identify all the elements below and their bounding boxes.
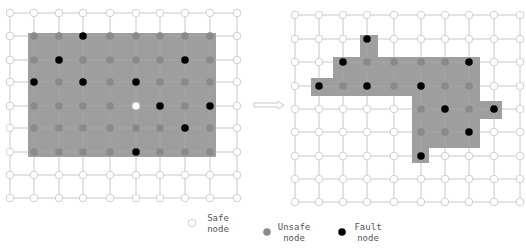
safe-node bbox=[441, 198, 449, 206]
safe-node bbox=[465, 35, 473, 43]
safe-node bbox=[465, 198, 473, 206]
safe-node bbox=[516, 198, 524, 206]
safe-node bbox=[6, 32, 14, 40]
safe-node bbox=[106, 194, 114, 202]
fault-node bbox=[338, 228, 346, 236]
unsafe-node bbox=[156, 32, 164, 40]
safe-node bbox=[465, 152, 473, 160]
fault-node bbox=[206, 102, 214, 110]
fault-region bbox=[333, 57, 480, 79]
unsafe-node bbox=[79, 56, 87, 64]
safe-node bbox=[30, 9, 38, 17]
safe-node bbox=[390, 35, 398, 43]
safe-node bbox=[441, 175, 449, 183]
unsafe-node bbox=[106, 148, 114, 156]
safe-node bbox=[233, 9, 241, 17]
safe-node bbox=[206, 9, 214, 17]
safe-node bbox=[79, 171, 87, 179]
fault-node bbox=[181, 124, 189, 132]
safe-node bbox=[516, 11, 524, 19]
safe-node bbox=[315, 152, 323, 160]
safe-node bbox=[339, 198, 347, 206]
safe-node bbox=[233, 194, 241, 202]
safe-node bbox=[465, 175, 473, 183]
fault-node bbox=[55, 56, 63, 64]
safe-node bbox=[390, 105, 398, 113]
unsafe-node bbox=[79, 102, 87, 110]
unsafe-node bbox=[441, 82, 449, 90]
safe-node bbox=[181, 171, 189, 179]
safe-node bbox=[490, 175, 498, 183]
fault-node bbox=[315, 82, 323, 90]
safe-node bbox=[363, 175, 371, 183]
safe-node bbox=[206, 171, 214, 179]
safe-node bbox=[6, 56, 14, 64]
unsafe-node bbox=[156, 78, 164, 86]
unsafe-node bbox=[30, 56, 38, 64]
safe-node bbox=[465, 11, 473, 19]
safe-node bbox=[516, 82, 524, 90]
safe-node bbox=[315, 198, 323, 206]
unsafe-node bbox=[390, 82, 398, 90]
safe-node bbox=[315, 105, 323, 113]
safe-node bbox=[339, 152, 347, 160]
safe-node bbox=[30, 171, 38, 179]
unsafe-node bbox=[106, 78, 114, 86]
safe-node bbox=[390, 175, 398, 183]
safe-node bbox=[291, 35, 299, 43]
safe-node bbox=[291, 198, 299, 206]
safe-node bbox=[291, 105, 299, 113]
safe-node bbox=[441, 35, 449, 43]
unsafe-node bbox=[465, 82, 473, 90]
safe-node bbox=[363, 198, 371, 206]
safe-node bbox=[417, 35, 425, 43]
safe-node bbox=[6, 102, 14, 110]
safe-node bbox=[490, 128, 498, 136]
unsafe-node bbox=[181, 32, 189, 40]
fault-region-diagram: Safe node Unsafe node Fault node bbox=[0, 0, 526, 252]
safe-node bbox=[233, 56, 241, 64]
safe-node bbox=[291, 152, 299, 160]
safe-node bbox=[291, 128, 299, 136]
fault-node bbox=[441, 105, 449, 113]
safe-node bbox=[156, 171, 164, 179]
safe-node bbox=[156, 194, 164, 202]
safe-node bbox=[55, 9, 63, 17]
safe-node bbox=[79, 194, 87, 202]
unsafe-node bbox=[263, 228, 271, 236]
unsafe-node bbox=[30, 148, 38, 156]
unsafe-node bbox=[79, 124, 87, 132]
safe-node bbox=[6, 194, 14, 202]
safe-node bbox=[339, 175, 347, 183]
safe-node bbox=[79, 9, 87, 17]
transform-arrow-icon bbox=[254, 101, 284, 109]
unsafe-node bbox=[55, 148, 63, 156]
safe-node bbox=[132, 9, 140, 17]
fault-node bbox=[79, 78, 87, 86]
safe-node bbox=[390, 128, 398, 136]
safe-node bbox=[6, 78, 14, 86]
unsafe-node bbox=[132, 56, 140, 64]
unsafe-node bbox=[417, 58, 425, 66]
safe-node bbox=[132, 194, 140, 202]
safe-node bbox=[233, 124, 241, 132]
safe-node bbox=[291, 175, 299, 183]
unsafe-node bbox=[156, 56, 164, 64]
safe-node bbox=[156, 9, 164, 17]
safe-node bbox=[106, 171, 114, 179]
unsafe-node bbox=[55, 32, 63, 40]
safe-node bbox=[441, 11, 449, 19]
safe-node bbox=[339, 128, 347, 136]
fault-node bbox=[417, 152, 425, 160]
fault-node bbox=[490, 105, 498, 113]
safe-node bbox=[315, 128, 323, 136]
safe-node bbox=[390, 152, 398, 160]
safe-node bbox=[6, 171, 14, 179]
unsafe-node bbox=[206, 78, 214, 86]
safe-node bbox=[490, 35, 498, 43]
safe-node bbox=[6, 9, 14, 17]
unsafe-node bbox=[55, 124, 63, 132]
unsafe-node bbox=[206, 32, 214, 40]
unsafe-node bbox=[156, 148, 164, 156]
unsafe-node bbox=[181, 102, 189, 110]
